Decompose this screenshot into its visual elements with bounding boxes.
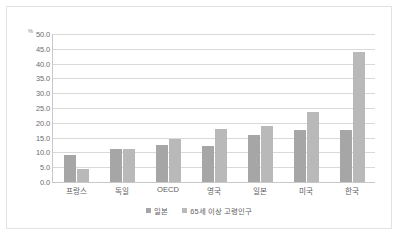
- y-axis-tick-label: 50.0: [10, 30, 50, 39]
- bar-group: [145, 34, 191, 182]
- bar-group: [237, 34, 283, 182]
- bar[interactable]: [353, 52, 365, 182]
- legend-item[interactable]: 65세 이상 고령인구: [182, 205, 251, 216]
- legend-label: 65세 이상 고령인구: [190, 205, 251, 216]
- plot-wrapper: % 50.045.040.035.030.025.020.015.010.05.…: [7, 7, 391, 228]
- y-axis-tick-label: 40.0: [10, 59, 50, 68]
- x-axis-tick-label: 한국: [329, 185, 375, 196]
- bar-group: [53, 34, 99, 182]
- legend-swatch-icon: [146, 208, 151, 213]
- bar[interactable]: [110, 149, 122, 182]
- bar[interactable]: [248, 135, 260, 182]
- bar[interactable]: [123, 149, 135, 182]
- x-axis-tick-label: OECD: [145, 185, 191, 194]
- legend-item[interactable]: 일본: [146, 205, 168, 216]
- chart-container: % 50.045.040.035.030.025.020.015.010.05.…: [6, 6, 392, 229]
- bar[interactable]: [156, 145, 168, 182]
- bar[interactable]: [169, 139, 181, 182]
- bar[interactable]: [340, 130, 352, 182]
- y-axis-tick-label: 15.0: [10, 133, 50, 142]
- y-axis-tick-label: 5.0: [10, 163, 50, 172]
- bar-group: [99, 34, 145, 182]
- legend-label: 일본: [154, 205, 168, 216]
- x-axis-tick-label: 프랑스: [53, 185, 99, 196]
- bar[interactable]: [261, 126, 273, 182]
- x-axis-category-labels: 프랑스독일OECD영국일본미국한국: [53, 185, 375, 199]
- y-axis-tick-label: 20.0: [10, 118, 50, 127]
- y-axis-tick-label: 45.0: [10, 44, 50, 53]
- x-axis-tick-label: 미국: [283, 185, 329, 196]
- bar-group: [191, 34, 237, 182]
- bar[interactable]: [202, 146, 214, 182]
- y-axis-tick-label: 10.0: [10, 148, 50, 157]
- plot-area: [53, 34, 375, 182]
- legend-swatch-icon: [182, 208, 187, 213]
- chart-legend: 일본65세 이상 고령인구: [7, 205, 391, 216]
- y-axis-tick-labels: 50.045.040.035.030.025.020.015.010.05.00…: [7, 34, 50, 182]
- bar-group: [283, 34, 329, 182]
- y-axis-tick-label: 0.0: [10, 178, 50, 187]
- bar-group: [329, 34, 375, 182]
- y-axis-tick-label: 35.0: [10, 74, 50, 83]
- bar[interactable]: [215, 129, 227, 182]
- x-axis-tick-label: 일본: [237, 185, 283, 196]
- gridline: [53, 182, 375, 183]
- y-axis-tick-label: 30.0: [10, 89, 50, 98]
- bar[interactable]: [64, 155, 76, 182]
- y-axis-tick-label: 25.0: [10, 104, 50, 113]
- bar[interactable]: [77, 169, 89, 182]
- bar[interactable]: [294, 130, 306, 182]
- x-axis-tick-label: 독일: [99, 185, 145, 196]
- bar[interactable]: [307, 112, 319, 182]
- x-axis-tick-label: 영국: [191, 185, 237, 196]
